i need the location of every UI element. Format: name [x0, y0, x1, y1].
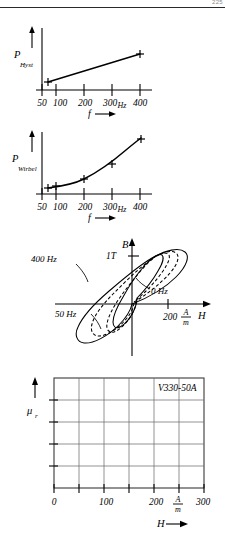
b-axis-value-1T: 1T — [106, 251, 117, 261]
b-axis-label: B — [122, 239, 129, 250]
leader-400hz — [76, 264, 88, 282]
y-axis-label: P — [11, 153, 19, 164]
material-grade-label: V330-50A — [158, 383, 197, 393]
x-tick-300: 300 — [102, 98, 118, 108]
x-tick-300: 300 — [102, 202, 118, 212]
chart-hysteresis-loops: B 1T 200 A m H 400 Hz 0 Hz 50 Hz — [0, 228, 225, 368]
h-axis-unit: A m — [181, 308, 191, 327]
x-tick-0: 0 — [52, 497, 57, 507]
grid-vertical-lines — [79, 378, 179, 488]
x-axis-label: f — [88, 108, 92, 119]
x-tick-100: 100 — [53, 202, 68, 212]
x-tick-400: 400 — [133, 98, 148, 108]
y-axis-label-sub: Wirbel — [18, 165, 37, 173]
h-axis-unit-denominator: m — [183, 318, 189, 327]
x-axis-arrow — [95, 111, 116, 117]
x-tick-50: 50 — [37, 98, 47, 108]
y-axis-label-sub: r — [35, 412, 38, 420]
x-axis-unit: Hz — [117, 101, 128, 110]
x-axis-unit-numerator: A — [175, 495, 181, 504]
label-400hz: 400 Hz — [31, 254, 57, 264]
x-axis-unit: A m — [173, 495, 183, 514]
x-tick-100: 100 — [53, 98, 68, 108]
h-axis-label: H — [197, 310, 207, 321]
y-axis-arrow — [29, 26, 35, 48]
h-axis-arrow — [203, 301, 211, 307]
x-axis-arrow — [166, 521, 188, 527]
x-axis-arrow — [95, 215, 116, 221]
label-0hz: 0 Hz — [151, 286, 168, 296]
x-tick-50: 50 — [37, 202, 47, 212]
x-tick-400: 400 — [133, 202, 148, 212]
x-tick-100: 100 — [99, 497, 114, 507]
x-axis-label: f — [88, 212, 92, 223]
h-axis-unit-numerator: A — [183, 308, 189, 317]
x-tick-200: 200 — [78, 202, 93, 212]
y-axis-arrow — [29, 130, 35, 152]
x-axis-unit: Hz — [117, 205, 128, 214]
y-axis-label: P — [13, 49, 21, 60]
x-tick-200: 200 — [149, 497, 164, 507]
x-axis-label: H — [156, 518, 166, 529]
header-rule — [0, 7, 225, 8]
y-axis-arrow — [32, 377, 38, 398]
chart-relative-permeability: μ r V330-50A 0 100 200 A m 300 H — [0, 372, 225, 532]
leader-50hz — [91, 314, 101, 329]
b-axis-arrow — [129, 238, 135, 246]
page-number: 225 — [212, 0, 223, 5]
loss-curve — [48, 138, 141, 188]
leader-0hz — [136, 278, 150, 289]
x-tick-200: 200 — [78, 98, 93, 108]
chart-eddy-current-loss: P Wirbel 50 100 200 300 Hz 400 f — [0, 122, 225, 220]
x-axis-unit-denominator: m — [175, 505, 181, 514]
y-axis-label-sub: Hyst — [19, 61, 34, 69]
x-tick-300: 300 — [195, 497, 211, 507]
chart-hysteresis-loss: P Hyst 50 100 200 300 Hz 400 f — [0, 18, 225, 116]
h-axis-value-200: 200 — [163, 312, 178, 322]
loss-line — [48, 54, 140, 82]
y-axis-label: μ — [26, 405, 32, 416]
figure-page: 225 — [0, 0, 225, 535]
data-markers — [44, 135, 145, 192]
label-50hz: 50 Hz — [55, 309, 77, 319]
